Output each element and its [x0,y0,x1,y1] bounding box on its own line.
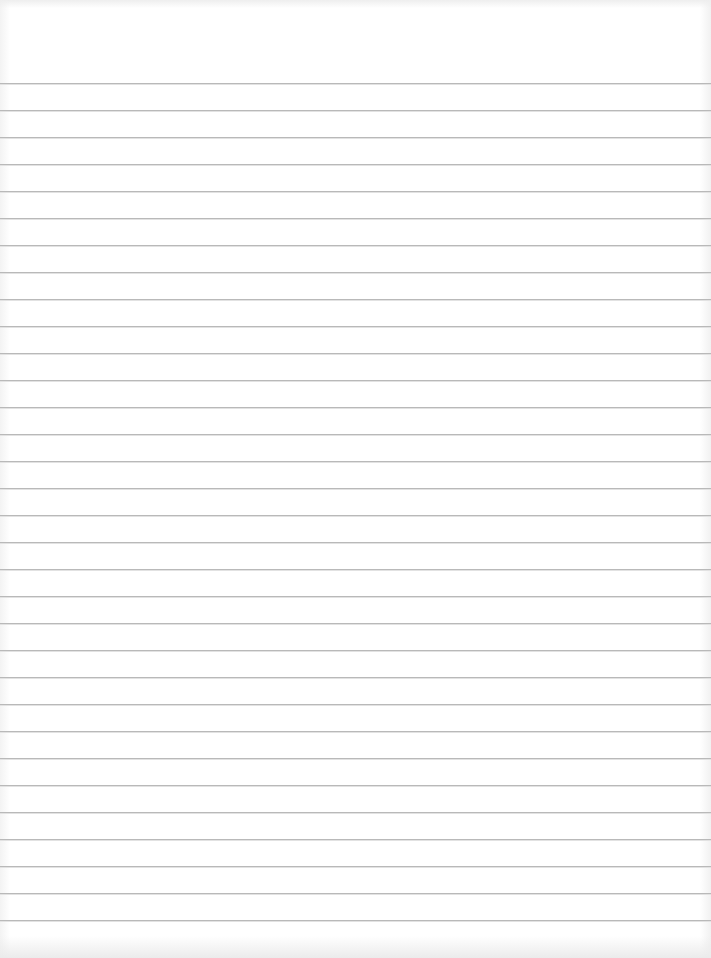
ruled-line [0,596,711,597]
ruled-line [0,623,711,624]
ruled-line [0,785,711,786]
lined-paper-sheet [0,0,711,958]
ruled-line [0,272,711,273]
ruled-line [0,812,711,813]
ruled-line [0,839,711,840]
ruled-line [0,245,711,246]
ruled-line [0,407,711,408]
ruled-line [0,83,711,84]
ruled-line [0,434,711,435]
ruled-line [0,353,711,354]
ruled-line [0,893,711,894]
ruled-line [0,326,711,327]
ruled-line [0,704,711,705]
ruled-line [0,731,711,732]
ruled-line [0,218,711,219]
ruled-line [0,758,711,759]
bottom-edge-shading [0,936,711,958]
ruled-line [0,542,711,543]
top-edge-shading [0,0,711,8]
ruled-line [0,920,711,921]
ruled-line [0,380,711,381]
ruled-line [0,650,711,651]
ruled-line [0,569,711,570]
ruled-line [0,677,711,678]
ruled-line [0,191,711,192]
ruled-line [0,515,711,516]
ruled-line [0,299,711,300]
ruled-line [0,488,711,489]
ruled-line [0,164,711,165]
ruled-line [0,137,711,138]
ruled-line [0,866,711,867]
ruled-line [0,110,711,111]
ruled-line [0,461,711,462]
